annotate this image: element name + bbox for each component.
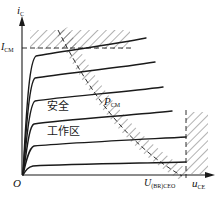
- origin-label: O: [13, 178, 21, 189]
- y-axis-label: iC: [17, 5, 24, 16]
- safe-region-label-line1: 安全: [47, 101, 69, 112]
- icm-hatch-band: [30, 30, 130, 49]
- characteristic-curve-3: [23, 87, 163, 174]
- soa-characteristic-figure: iC uCE O ICM PCM U(BR)CEO 安全 工作区: [0, 0, 223, 200]
- y-axis-arrowhead: [19, 16, 25, 26]
- safe-region-label-line2: 工作区: [47, 126, 80, 137]
- pcm-hyperbola-boundary: [58, 30, 186, 176]
- ubrceo-limit-boundary: [186, 110, 208, 178]
- ubrceo-label: U(BR)CEO: [144, 178, 175, 188]
- pcm-label: PCM: [104, 96, 120, 107]
- pcm-hatch-band: [62, 30, 186, 176]
- x-axis-label: uCE: [192, 178, 205, 189]
- icm-label: ICM: [1, 42, 14, 52]
- ubrceo-hatch-band: [186, 112, 208, 174]
